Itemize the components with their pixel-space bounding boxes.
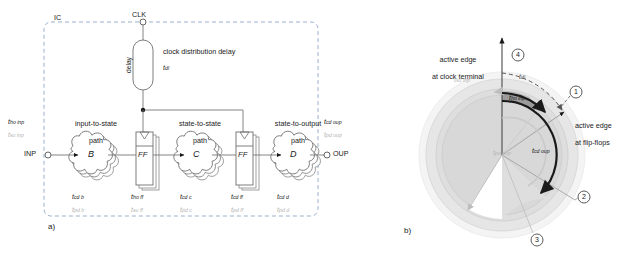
timing-sub: pd oup [495,150,511,156]
axis-label-line1: active edge [440,55,477,64]
timing-sub: su ff [133,207,143,213]
oup-terminal-label: OUP [333,150,349,159]
block-label-d: D [290,149,297,160]
timing-sub: pd ff [233,207,243,213]
timing-su-inp: tsu inp [8,131,24,140]
block-label-ff2: FF [238,150,247,159]
path-caption-line2: path [89,136,103,145]
timing-sub: cd b [74,194,84,200]
timing-sub: su inp [456,77,470,83]
timing-sub: cd c [182,194,192,200]
timing-cd-ff: tcd ff [231,193,243,202]
timing-pd-d: tpd d [277,206,289,215]
timing-sub: su inp [10,132,24,138]
timing-sub: pd c [182,207,192,213]
t-dl-sub: dl [165,65,169,71]
callout-label-3: 3 [533,236,541,244]
timing-sub: pd d [279,207,289,213]
timing-ho-ff: tho ff [131,193,143,202]
timing-sub: cd d [279,194,289,200]
panel-a-tag: a) [48,222,55,231]
path-caption-line1: state-to-state [179,119,221,128]
path-caption-line2: path [291,136,305,145]
timing-sub: pd b [74,207,84,213]
clk-label: CLK [132,11,146,20]
delay-block-label: delay [125,52,163,78]
path-caption-input-to-state: input-to-state path [56,111,128,154]
timing-pd-ff: tpd ff [231,206,243,215]
polar-label-cd-oup: tcd oup [532,147,550,156]
axis-label-line1: active edge [575,121,612,130]
callout-label-4: 4 [514,51,522,59]
axis-label-line2: at flip-flops [575,138,610,147]
polar-label-dl: tdl [519,73,525,82]
timing-sub: cd oup [534,148,550,154]
path-caption-state-to-output: state-to-output path [256,111,332,154]
timing-ho-inp: tho inp [8,118,24,127]
path-caption-line2: path [193,136,207,145]
timing-pd-b: tpd b [72,206,84,215]
polar-label-su-inp: tsu inp [454,76,470,85]
timing-sub: ho inp [511,95,525,101]
path-caption-line1: input-to-state [75,119,117,128]
timing-pd-oup: tpd oup [324,131,342,140]
timing-cd-d: tcd d [277,193,289,202]
block-label-c: C [193,149,200,160]
clock-distribution-delay-caption: clock distribution delay [163,48,235,57]
timing-pd-c: tpd c [180,206,192,215]
block-label-b: B [88,149,94,160]
timing-cd-oup: tcd oup [324,118,342,127]
clk-terminal-pin [140,19,146,25]
flipflop-block-1 [136,132,159,190]
figure-root: IC CLK delay clock distribution delay td… [0,0,636,253]
timing-sub: ho inp [10,119,24,125]
timing-su-ff: tsu ff [131,206,143,215]
polar-label-ho-inp: tho inp [509,94,525,103]
callout-label-1: 1 [572,88,580,96]
timing-cd-b: tcd b [72,193,84,202]
path-caption-line1: state-to-output [275,119,321,128]
callout-label-2: 2 [580,193,588,201]
polar-label-pd-oup: tpd oup [493,149,511,158]
timing-sub: dl [521,74,525,80]
panel-b-tag: b) [404,226,411,235]
t-dl-symbol: tdl [163,64,169,73]
timing-sub: cd oup [326,119,342,125]
inp-terminal-label: INP [24,150,36,159]
inp-terminal-pin [45,152,51,158]
block-label-ff1: FF [138,150,147,159]
polar-axis-label-flipflops: active edge at flip-flops [567,113,612,156]
timing-sub: cd ff [233,194,243,200]
timing-cd-c: tcd c [180,193,192,202]
timing-sub: ho ff [133,194,143,200]
timing-sub: pd oup [326,132,342,138]
ic-label: IC [54,14,61,23]
path-caption-state-to-state: state-to-state path [160,111,232,154]
